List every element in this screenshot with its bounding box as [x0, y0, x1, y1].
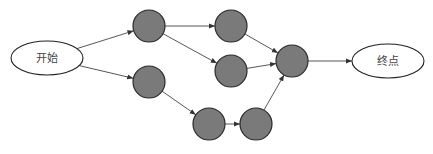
edge-f-to-g [264, 75, 284, 110]
node-f [240, 108, 272, 140]
node-b [215, 10, 247, 42]
nodes-layer [133, 10, 308, 140]
edge-d-to-e [162, 91, 196, 115]
node-d [133, 66, 165, 98]
edge-b-to-g [245, 34, 278, 53]
edge-c-to-g [247, 64, 276, 69]
start-node: 开始 [11, 41, 83, 75]
node-e [193, 108, 225, 140]
node-c [215, 55, 247, 87]
network-diagram: 开始 终点 [0, 0, 433, 154]
end-label: 终点 [377, 54, 399, 68]
edge-start-to-a [77, 31, 134, 49]
node-g [276, 45, 308, 77]
edge-start-to-d [79, 66, 133, 79]
node-a [133, 10, 165, 42]
edge-a-to-c [163, 34, 217, 64]
end-node: 终点 [352, 44, 424, 78]
start-label: 开始 [36, 51, 58, 65]
